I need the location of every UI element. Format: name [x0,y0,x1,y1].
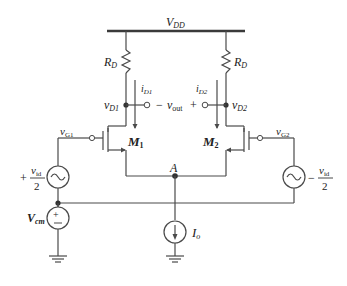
ground-vcm-icon [49,256,67,262]
left-drain-branch [108,31,130,132]
vd1-label: vD1 [104,98,119,113]
vid-left-sign: + [20,171,27,185]
id1-label: iD1 [141,83,152,96]
rd-right-label: RD [233,55,247,70]
vd2-label: vD2 [232,98,247,113]
vout-minus-terminal [144,102,150,108]
vid-left-denominator: 2 [34,180,40,192]
node-a-label: A [169,161,178,175]
m1-label: M1 [127,134,144,150]
vdd-label: VDD [166,15,185,30]
vg1-label: vG1 [60,125,74,139]
resistor-rd-right [222,50,230,73]
sine-icon [51,174,65,180]
vcm-label: Vcm [27,211,45,226]
differential-amplifier-schematic: VDD RD RD iD1 iD2 vD1 vD2 − vout + [0,0,347,286]
id2-label: iD2 [196,83,208,96]
vg2-label: vG2 [276,125,290,139]
vout-plus-terminal [202,102,208,108]
io-label: Io [191,225,200,241]
ground-io-icon [166,256,184,262]
right-drain-branch [222,31,244,132]
vout-minus-sign: − [156,98,163,112]
vid-left-numerator: vid [31,164,42,178]
plus-icon: + [53,209,59,220]
vid-right-numerator: vid [319,164,330,178]
sine-icon [287,174,301,180]
vid-right-sign: − [308,171,315,185]
m2-label: M2 [202,134,219,150]
rd-left-label: RD [103,55,117,70]
vout-plus-sign: + [190,98,197,112]
resistor-rd-left [122,50,130,73]
vout-label: vout [167,98,183,113]
vid-right-denominator: 2 [322,180,328,192]
